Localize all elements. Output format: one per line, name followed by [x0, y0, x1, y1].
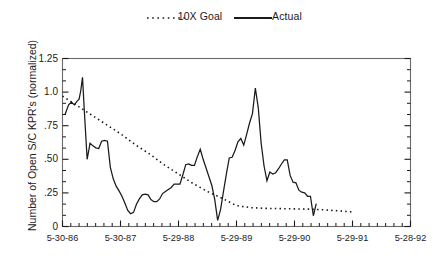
series-line-actual: [65, 77, 316, 220]
plot-frame: [63, 59, 411, 227]
series-line-10x-goal: [63, 96, 353, 212]
chart-container: 10X Goal Actual Number of Open S/C KPR's…: [0, 0, 440, 263]
plot-area: [0, 0, 440, 263]
